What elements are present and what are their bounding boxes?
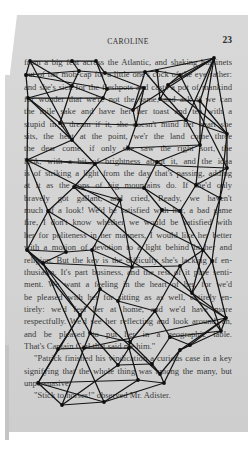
drawn-node: [70, 138, 74, 142]
drawn-edge: [128, 145, 200, 148]
drawn-edge: [72, 140, 95, 164]
drawn-node: [116, 363, 120, 367]
drawn-edge: [180, 185, 196, 211]
drawn-node: [201, 248, 205, 252]
drawn-node: [72, 185, 76, 189]
drawn-edge: [74, 187, 192, 293]
drawn-edge: [128, 148, 157, 162]
drawn-node: [28, 59, 32, 63]
drawn-edge: [196, 185, 220, 198]
drawn-node: [116, 299, 120, 303]
drawn-edge: [144, 188, 162, 210]
drawn-edge: [28, 86, 72, 98]
drawn-edge: [100, 289, 118, 301]
drawn-edge: [74, 164, 95, 187]
drawn-node: [130, 265, 134, 269]
drawn-node: [225, 166, 229, 170]
drawn-node: [41, 261, 45, 265]
drawn-edge: [157, 145, 200, 162]
drawn-edge: [212, 198, 220, 261]
drawn-node: [142, 186, 146, 190]
drawn-node: [131, 108, 135, 112]
drawn-edge: [80, 315, 90, 333]
drawn-edge: [203, 250, 212, 261]
drawn-node: [198, 99, 202, 103]
drawn-edge: [157, 71, 180, 75]
drawn-node: [46, 209, 50, 213]
drawn-node: [26, 96, 30, 100]
drawn-node: [155, 69, 159, 73]
drawn-edge: [144, 188, 180, 211]
drawn-node: [24, 73, 28, 77]
drawn-node: [219, 329, 223, 333]
drawn-edge: [84, 333, 90, 348]
drawn-edge: [130, 342, 152, 364]
drawn-node: [118, 198, 122, 202]
drawn-edge: [27, 160, 227, 168]
drawn-node: [194, 183, 198, 187]
drawn-node: [158, 372, 162, 376]
drawn-edge: [27, 160, 48, 211]
drawn-edge: [38, 349, 58, 383]
drawn-node: [142, 86, 146, 90]
drawn-node: [88, 331, 92, 335]
drawn-edge: [105, 72, 145, 73]
drawn-edge: [160, 99, 186, 120]
drawn-node: [78, 313, 82, 317]
drawn-edge: [118, 267, 132, 301]
drawn-edge: [43, 263, 132, 267]
drawn-edge: [118, 348, 129, 365]
drawn-edge: [74, 187, 144, 188]
drawn-edge: [136, 88, 144, 125]
drawn-node: [101, 96, 105, 100]
drawn-edge: [105, 73, 144, 88]
drawn-edge: [133, 110, 136, 125]
drawn-edge: [96, 61, 107, 89]
drawn-edge: [132, 210, 162, 267]
drawn-node: [184, 118, 188, 122]
drawn-node: [178, 264, 182, 268]
drawn-node: [127, 346, 131, 350]
drawn-node: [155, 160, 159, 164]
drawn-edge: [72, 98, 103, 140]
drawn-edge: [27, 98, 28, 160]
drawn-node: [225, 132, 229, 136]
drawn-edge: [104, 380, 138, 402]
drawn-edge: [43, 252, 66, 263]
drawn-node: [166, 83, 170, 87]
drawn-node: [126, 146, 130, 150]
drawn-node: [218, 196, 222, 200]
drawn-node: [162, 381, 166, 385]
drawn-node: [58, 121, 62, 125]
drawn-node: [25, 158, 29, 162]
drawn-edge: [26, 75, 28, 98]
drawn-edge: [60, 123, 136, 125]
drawn-edge: [152, 337, 170, 364]
drawn-node: [224, 316, 228, 320]
drawn-node: [70, 84, 74, 88]
drawn-edge: [95, 148, 128, 164]
drawn-edge: [28, 98, 72, 140]
drawn-node: [158, 97, 162, 101]
drawn-node: [103, 71, 107, 75]
drawn-edge: [60, 86, 72, 123]
drawn-edge: [203, 198, 220, 250]
drawn-node: [94, 59, 98, 63]
drawn-edge: [48, 187, 74, 211]
drawn-edge: [196, 145, 200, 185]
network-drawing-overlay: [0, 0, 248, 449]
drawn-node: [90, 248, 94, 252]
drawn-edge: [180, 266, 192, 293]
drawn-node: [143, 70, 147, 74]
drawn-edge: [27, 250, 80, 315]
drawn-edge: [144, 162, 157, 188]
drawn-edge: [103, 98, 133, 110]
drawn-edge: [104, 383, 164, 402]
drawn-node: [210, 259, 214, 263]
drawn-node: [128, 340, 132, 344]
drawn-edge: [128, 125, 136, 148]
drawn-node: [102, 400, 106, 404]
drawn-node: [25, 248, 29, 252]
drawn-node: [188, 343, 192, 347]
drawn-edge: [200, 58, 214, 145]
